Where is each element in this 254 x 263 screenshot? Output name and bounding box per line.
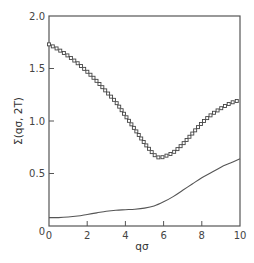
square-marker [235,99,238,102]
x-tick-label: 6 [160,230,166,241]
square-marker [206,117,209,120]
y-tick-label: 0 [39,226,45,237]
square-marker [165,154,168,157]
square-marker [199,122,202,125]
square-marker [212,111,215,114]
x-tick-label: 10 [234,230,247,241]
square-marker [173,150,176,153]
square-marker [79,65,82,68]
square-marker [223,105,226,108]
square-marker [150,151,153,154]
square-marker [66,54,69,57]
square-marker [176,148,179,151]
y-tick-label: 1.0 [29,116,45,127]
square-marker [104,89,107,92]
square-marker [191,132,194,135]
square-marker [62,51,65,54]
square-marker [110,95,113,98]
square-marker [197,126,200,129]
square-marker-series [48,43,239,159]
square-marker [188,135,191,138]
square-marker [169,153,172,156]
x-tick-label: 2 [84,230,90,241]
square-marker [185,138,188,141]
square-marker [182,142,185,145]
square-marker [76,62,79,65]
square-marker [140,137,143,140]
square-marker [179,145,182,148]
square-marker [107,92,110,95]
square-marker [95,79,98,82]
x-axis-label: qσ [135,240,149,252]
square-marker [118,105,121,108]
x-axis-ticks: 0246810 [46,221,247,241]
square-marker [130,123,133,126]
square-marker [86,70,89,73]
y-tick-label: 1.5 [29,63,45,74]
square-marker [120,109,123,112]
plot-frame [49,16,240,226]
y-tick-label: 0.5 [29,168,45,179]
square-marker [220,107,223,110]
square-marker [157,156,160,159]
square-marker [203,119,206,122]
square-marker [73,59,76,62]
square-marker [89,73,92,76]
square-marker [216,109,219,112]
square-marker [127,119,130,122]
square-marker [145,144,148,147]
square-marker [194,129,197,132]
square-marker [112,98,115,101]
x-tick-label: 4 [122,230,128,241]
square-marker [142,140,145,143]
square-marker [51,45,54,48]
square-marker [231,101,234,104]
square-marker [135,130,138,133]
square-marker [55,47,58,50]
square-marker [92,76,95,79]
square-marker [153,154,156,157]
x-tick-label: 0 [46,230,52,241]
square-marker [123,112,126,115]
square-marker [48,43,51,46]
square-marker [137,133,140,136]
square-marker [83,67,86,70]
square-marker [98,82,101,85]
square-marker [132,126,135,129]
chart: 0246810 00.51.01.52.0 qσ Σ(qσ, 2T) [0,0,254,263]
y-tick-label: 2.0 [29,11,45,22]
solid-curve [49,159,240,218]
y-axis-label: Σ(qσ, 2T) [12,97,24,145]
plot-area: 0246810 00.51.01.52.0 [29,11,246,242]
square-marker [69,56,72,59]
square-marker [59,49,62,52]
square-marker [209,114,212,117]
square-marker [115,102,118,105]
square-marker [161,156,164,159]
x-tick-label: 8 [199,230,205,241]
square-marker [227,102,230,105]
square-marker [147,147,150,150]
square-marker [125,116,128,119]
square-marker [101,86,104,89]
